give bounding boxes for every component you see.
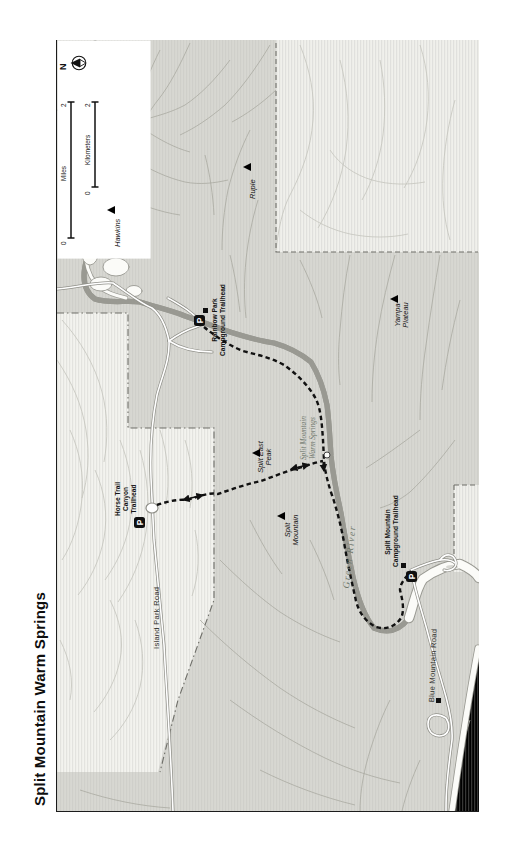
scale-km-zero: 0 — [84, 191, 91, 195]
split-east-peak-label: Split EastPeak — [257, 437, 274, 477]
horse-trail-canyon-trailhead-label: Horse TrailCanyonTrailhead — [114, 475, 137, 523]
split-mountain-trailhead-marker — [401, 563, 406, 568]
split-mountain-campground-trailhead-label: Split MountainCampground Trailhead — [384, 497, 400, 567]
hawkins-peak-marker-peak-icon — [107, 206, 115, 214]
scale-km-unit: Kilometers — [84, 135, 91, 165]
scale-miles-unit: Miles — [60, 166, 67, 181]
parking-icon: P — [406, 571, 417, 582]
map-artwork — [0, 0, 516, 842]
split-mountain-peak-label: SplitMountain — [284, 510, 301, 550]
rainbow-park-trailhead-marker — [203, 308, 208, 313]
split-east-peak-marker-peak-icon — [252, 449, 260, 457]
map-title: Split Mountain Warm Springs — [31, 592, 48, 806]
page: Split Mountain Warm Springs N0Kilometers… — [0, 0, 516, 842]
parking-icon: P — [194, 315, 205, 326]
hawkins-peak-label: Hawkins — [114, 219, 122, 247]
yampa-plateau-marker-peak-icon — [390, 295, 398, 303]
scale-km-max: 2 — [84, 103, 91, 107]
warm-springs-label: Split MountainWarm Springs — [299, 405, 318, 471]
north-compass-icon — [69, 53, 89, 73]
north-label: N — [59, 64, 69, 71]
ruple-peak-label: Ruple — [249, 179, 257, 199]
ruple-peak-marker-peak-icon — [243, 163, 251, 171]
scale-miles-zero: 0 — [60, 241, 67, 245]
parking-icon: P — [134, 517, 145, 528]
island-park-road-label: Island Park Road — [153, 587, 161, 649]
blue-mountain-road-site-marker — [436, 698, 441, 703]
rainbow-park-trailhead-label: Rainbow ParkCampground Trailhead — [211, 284, 227, 356]
scale-miles-max: 2 — [60, 103, 67, 107]
split-mountain-peak-marker-peak-icon — [277, 512, 285, 520]
